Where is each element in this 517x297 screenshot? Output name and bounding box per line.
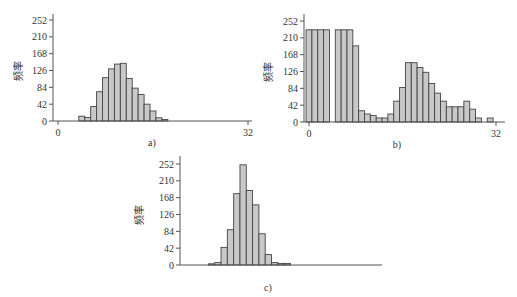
bar-b-20 [423,72,429,122]
y-tick-label-a-168: 168 [32,48,47,59]
y-axis-title-a: 频率 [12,61,24,81]
y-tick-label-c-42: 42 [164,243,174,254]
bar-b-10 [365,114,371,122]
bar-b-11 [370,116,376,122]
bar-b-23 [440,101,446,122]
bar-b-16 [400,88,406,122]
bar-b-2 [318,30,324,122]
x-tick-label-b-0: 0 [307,128,312,139]
bar-c-10 [240,165,246,265]
y-tick-label-a-252: 252 [32,15,47,26]
y-tick-label-c-252: 252 [159,159,174,170]
bar-a-4 [79,116,85,121]
bar-c-11 [246,190,252,265]
histogram-figure: 04284126168210252032频率a) 042841261682102… [0,0,517,297]
bar-b-1 [312,30,318,122]
bar-c-12 [253,205,259,265]
y-tick-label-c-84: 84 [164,226,174,237]
y-tick-label-a-210: 210 [32,31,47,42]
bar-a-16 [150,111,156,121]
bar-a-11 [120,63,126,121]
bar-a-12 [126,79,132,121]
bar-b-28 [470,109,476,122]
bar-c-14 [265,255,271,265]
bar-a-8 [103,78,109,121]
y-tick-label-a-126: 126 [32,65,47,76]
bar-a-9 [108,69,114,121]
y-tick-label-b-84: 84 [288,83,298,94]
y-tick-label-a-42: 42 [37,99,47,110]
bar-c-7 [221,247,227,265]
x-tick-label-a-0: 0 [56,127,61,138]
y-tick-label-c-168: 168 [159,192,174,203]
x-tick-label-a-32: 32 [243,127,253,138]
bar-b-22 [435,93,441,122]
y-axis-title-b: 频率 [262,62,274,82]
histogram-panel-a: 04284126168210252032频率a) [12,14,253,149]
histogram-panel-c: 04284126168210252频率c) [133,156,382,294]
bar-b-7 [347,30,353,122]
bar-a-14 [138,95,144,121]
bar-b-13 [382,118,388,122]
bar-a-7 [97,92,103,121]
bar-c-9 [234,194,240,265]
bar-b-25 [452,107,458,122]
y-tick-label-b-168: 168 [283,49,298,60]
bar-b-21 [429,84,435,122]
y-tick-label-a-0: 0 [42,116,47,127]
y-tick-label-b-42: 42 [288,100,298,111]
bar-b-19 [417,67,423,122]
bar-c-8 [227,230,233,265]
bar-b-26 [458,107,464,122]
panel-label-a: a) [148,137,156,149]
bar-a-6 [91,107,97,121]
bar-b-5 [335,30,341,122]
y-tick-label-c-210: 210 [159,175,174,186]
bar-a-13 [132,88,138,121]
bar-b-6 [341,30,347,122]
bar-b-3 [324,30,330,122]
y-tick-label-c-126: 126 [159,209,174,220]
bar-b-18 [411,63,417,122]
bar-b-17 [405,63,411,122]
y-tick-label-b-126: 126 [283,66,298,77]
bar-a-5 [85,117,91,121]
y-tick-label-b-0: 0 [293,117,298,128]
bar-b-27 [464,101,470,122]
panel-label-c: c) [264,282,272,294]
y-tick-label-b-252: 252 [283,16,298,27]
bar-b-0 [306,30,312,122]
y-axis-title-c: 频率 [133,205,145,225]
bar-a-15 [144,104,150,121]
bar-b-15 [394,101,400,122]
bar-b-14 [388,114,394,122]
bar-b-31 [487,118,493,122]
bar-c-13 [259,234,265,265]
histogram-panel-b: 04284126168210252032频率b) [262,14,505,151]
bar-b-8 [353,46,359,122]
bar-b-29 [476,118,482,122]
y-tick-label-c-0: 0 [169,260,174,271]
x-tick-label-b-32: 32 [491,128,501,139]
bar-b-24 [446,107,452,122]
y-tick-label-a-84: 84 [37,82,47,93]
y-tick-label-b-210: 210 [283,32,298,43]
panel-label-b: b) [393,139,401,151]
bar-b-9 [359,111,365,122]
bar-b-12 [376,118,382,122]
bar-a-10 [114,64,120,121]
